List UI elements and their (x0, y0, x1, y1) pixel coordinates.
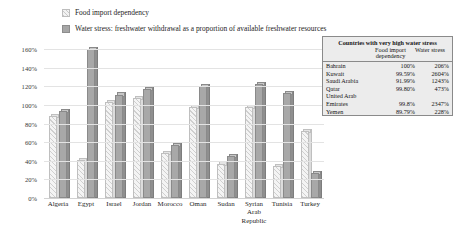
bar-food-import-dependency (273, 166, 281, 198)
y-tick-label: 0% (28, 195, 37, 202)
legend-swatch-solid-icon (62, 25, 70, 33)
table-cell-water-stress: 206% (415, 62, 449, 70)
table-cell-country: Kuwait (326, 70, 381, 78)
legend-label-0: Food import dependency (75, 8, 149, 17)
y-tick-label: 120% (22, 83, 37, 90)
y-tick-label: 40% (25, 157, 37, 164)
table-cell-water-stress: 473% (415, 85, 449, 93)
grid-line (44, 49, 324, 50)
table-cell-food-import: 89.79% (381, 108, 415, 116)
x-axis-category-label: Egypt (72, 200, 100, 225)
table-cell-water-stress: 1243% (415, 77, 449, 85)
bar-water-stress (115, 95, 123, 198)
table-cell-country: Qatar (326, 85, 381, 93)
bar-food-import-dependency (105, 102, 113, 198)
bar-water-stress (227, 156, 235, 198)
table-body: Bahrain100%206%Kuwait99.59%2604%Saudi Ar… (323, 62, 452, 115)
y-tick-label: 60% (25, 139, 37, 146)
table-header-water-stress: Water stress (411, 47, 449, 61)
bar-face (189, 107, 197, 198)
bar-face (217, 164, 225, 198)
bar-food-import-dependency (133, 98, 141, 198)
bar-face (49, 116, 57, 198)
bar-face (105, 102, 113, 198)
table-row: Yemen89.79%228% (323, 108, 452, 116)
bar-food-import-dependency (217, 164, 225, 198)
bar-food-import-dependency (301, 131, 309, 198)
bar-water-stress (171, 145, 179, 198)
x-axis-category-label: Sudan (212, 200, 240, 225)
bar-face (301, 131, 309, 198)
table-row: Kuwait99.59%2604% (323, 70, 452, 78)
x-axis-category-label: Turkey (296, 200, 324, 225)
chart-legend: Food import dependency Water stress: fre… (62, 6, 326, 38)
grid-line (44, 105, 324, 106)
grid-line (44, 124, 324, 125)
legend-label-1: Water stress: freshwater withdrawal as a… (75, 24, 326, 33)
table-header-blank (326, 47, 370, 61)
y-tick-label: 160% (22, 46, 37, 53)
bar-face (245, 107, 253, 198)
grid-line (44, 161, 324, 162)
table-cell-food-import: 99.8% (381, 100, 415, 108)
table-cell-water-stress: 2604% (415, 70, 449, 78)
y-tick-label: 100% (22, 101, 37, 108)
bar-face (115, 95, 123, 198)
bar-chart: Food import dependency Water stress: fre… (0, 0, 456, 242)
bar-face (273, 166, 281, 198)
table-row: Saudi Arabia91.99%1243% (323, 77, 452, 85)
legend-item-water-stress: Water stress: freshwater withdrawal as a… (62, 22, 326, 35)
table-cell-food-import: 99.59% (381, 70, 415, 78)
bar-food-import-dependency (245, 107, 253, 198)
table-cell-country: Saudi Arabia (326, 77, 381, 85)
bar-food-import-dependency (49, 116, 57, 198)
x-axis-category-label: Israel (100, 200, 128, 225)
x-axis-labels: AlgeriaEgyptIsraelJordanMoroccoOmanSudan… (44, 200, 324, 225)
grid-line (44, 198, 324, 199)
bar-water-stress (311, 173, 319, 198)
table-cell-water-stress: 228% (415, 108, 449, 116)
table-header: Food import dependency Water stress (323, 47, 452, 61)
table-cell-food-import: 100% (381, 62, 415, 70)
x-axis-category-label: Tunisia (268, 200, 296, 225)
x-axis-category-label: Syrian Arab Republic (240, 200, 268, 225)
grid-line (44, 142, 324, 143)
table-cell-food-import: 99.80% (381, 85, 415, 93)
table-cell-country: Bahrain (326, 62, 381, 70)
bar-face (133, 98, 141, 198)
y-tick-label: 140% (22, 64, 37, 71)
y-tick-label: 20% (25, 176, 37, 183)
y-axis-labels: 160%140%120%100%80%60%40%20%0% (0, 43, 40, 204)
table-cell-water-stress: 2347% (415, 100, 449, 108)
y-tick-label: 80% (25, 120, 37, 127)
grid-line (44, 68, 324, 69)
table-cell-food-import: 91.99% (381, 77, 415, 85)
bar-food-import-dependency (189, 107, 197, 198)
bar-water-stress (283, 93, 291, 198)
bar-face (311, 173, 319, 198)
bar-face (227, 156, 235, 198)
grid-line (44, 86, 324, 87)
table-cell-country: United Arab Emirates (326, 92, 381, 107)
legend-item-food-import-dependency: Food import dependency (62, 6, 326, 19)
x-axis-category-label: Algeria (44, 200, 72, 225)
table-row: Qatar99.80%473% (323, 85, 452, 93)
high-water-stress-table: Countries with very high water stress Fo… (322, 36, 453, 116)
table-cell-country: Yemen (326, 108, 381, 116)
bar-face (171, 145, 179, 198)
table-row: United Arab Emirates99.8%2347% (323, 92, 452, 107)
table-row: Bahrain100%206% (323, 62, 452, 70)
legend-swatch-hatched-icon (62, 9, 70, 17)
plot-area (44, 49, 324, 198)
x-axis-category-label: Morocco (156, 200, 184, 225)
grid-line (44, 179, 324, 180)
x-axis-category-label: Jordan (128, 200, 156, 225)
table-header-food-import: Food import dependency (370, 47, 411, 61)
x-axis-category-label: Oman (184, 200, 212, 225)
bar-face (283, 93, 291, 198)
